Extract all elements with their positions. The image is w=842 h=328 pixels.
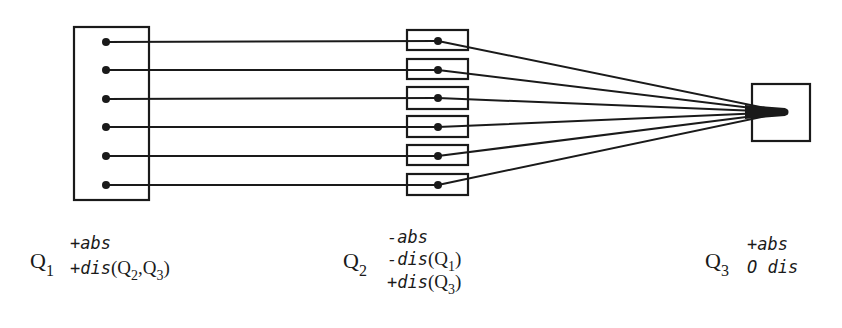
close-paren: )	[455, 248, 461, 269]
q1-term-abs: +abs	[70, 235, 111, 252]
q1-dis-word: +dis	[70, 258, 111, 278]
q3-term-dis: O dis	[747, 259, 798, 276]
q1-label: Q1	[30, 250, 54, 272]
q1-dis-arg-index: 3	[157, 268, 164, 283]
q2-term-abs: -abs	[387, 229, 428, 246]
q1-dot	[102, 152, 110, 160]
q2-dis-arg-symbol: Q	[434, 248, 448, 269]
q1-dot	[102, 38, 110, 46]
q2-to-q3-lines	[438, 41, 785, 185]
q2-dot	[434, 123, 442, 131]
q2-dot	[434, 37, 442, 45]
q3-dot	[782, 109, 789, 116]
q2-dot	[434, 181, 442, 189]
q1-dots	[102, 38, 110, 189]
q1-term-dis: +dis(Q2,Q3)	[70, 258, 170, 277]
q2-dis-word: -dis	[387, 249, 428, 269]
q1-dis-arg-symbol: Q	[143, 257, 157, 278]
q1-dis-arg-symbol: Q	[117, 257, 131, 278]
q2-label: Q2	[343, 250, 367, 272]
close-paren: )	[455, 271, 461, 292]
q1-box	[74, 27, 149, 200]
q3-label: Q3	[705, 250, 729, 272]
q3-term-abs: +abs	[747, 236, 788, 253]
q3-index: 3	[721, 262, 729, 279]
q1-dot	[102, 95, 110, 103]
q1-to-q2-lines	[106, 41, 438, 185]
q2-dot	[434, 66, 442, 74]
q2-dot	[434, 152, 442, 160]
q2-dis-word: +dis	[387, 272, 428, 292]
q1-dot	[102, 123, 110, 131]
close-paren: )	[164, 257, 170, 278]
q1-dot	[102, 181, 110, 189]
q2-dot	[434, 94, 442, 102]
q1-dis-arg-index: 2	[131, 268, 138, 283]
q2-box-group	[407, 30, 468, 195]
q1-index: 1	[46, 262, 54, 279]
q1-dot	[102, 66, 110, 74]
q2-symbol: Q	[343, 248, 359, 273]
q2-term-dis-q1: -dis(Q1)	[387, 249, 461, 268]
q2-index: 2	[359, 262, 367, 279]
q3-convergence-point	[745, 105, 788, 119]
q3-symbol: Q	[705, 248, 721, 273]
q2-dis-arg-symbol: Q	[434, 271, 448, 292]
q2-dis-arg-index: 3	[448, 282, 455, 297]
q1-symbol: Q	[30, 248, 46, 273]
q2-term-dis-q3: +dis(Q3)	[387, 272, 461, 291]
